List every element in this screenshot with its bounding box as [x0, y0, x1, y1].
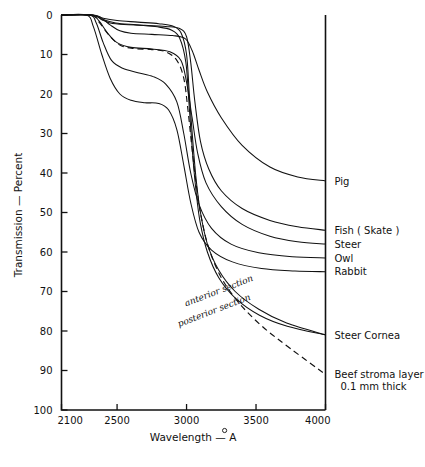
y-tick-label: 90 — [40, 365, 53, 376]
series-label: Beef stroma layer — [335, 369, 425, 380]
x-axis-title: Wavelength — A — [150, 428, 237, 443]
x-tick-label: 2500 — [104, 415, 129, 426]
y-tick-label: 20 — [40, 89, 53, 100]
series-label: Fish ( Skate ) — [335, 225, 400, 236]
y-axis-title: Transmission — Percent — [12, 153, 24, 279]
series-label: Pig — [335, 176, 350, 187]
y-tick-label: 0 — [46, 10, 52, 21]
series-label-secondline: 0.1 mm thick — [341, 381, 407, 392]
series-label: Owl — [335, 253, 354, 264]
y-tick-label: 40 — [40, 168, 53, 179]
x-tick-label: 3000 — [174, 415, 199, 426]
y-tick-label: 30 — [40, 128, 53, 139]
y-tick-label: 70 — [40, 286, 53, 297]
series-label: Steer Cornea — [335, 330, 401, 341]
y-tick-label: 50 — [40, 207, 53, 218]
x-tick-label: 3500 — [243, 415, 268, 426]
y-tick-label: 100 — [33, 405, 52, 416]
series-label: Steer — [335, 239, 363, 250]
x-tick-label: 4000 — [305, 415, 330, 426]
chart-figure: 0102030405060708090100 21002500300035004… — [0, 0, 425, 467]
y-tick-label: 80 — [40, 326, 53, 337]
transmission-spectrum-chart: 0102030405060708090100 21002500300035004… — [0, 0, 425, 467]
y-tick-label: 60 — [40, 247, 53, 258]
y-tick-label: 10 — [40, 49, 53, 60]
series-label: Rabbit — [335, 266, 367, 277]
x-tick-label: 2100 — [58, 415, 83, 426]
